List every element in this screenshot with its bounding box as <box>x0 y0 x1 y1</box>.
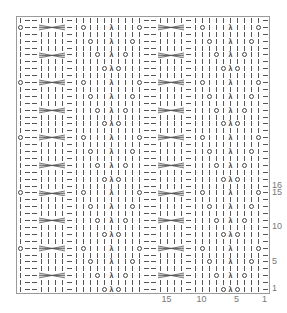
knit-icon <box>213 231 220 238</box>
purl-icon <box>150 190 157 197</box>
decrease-icon: λ <box>108 190 115 197</box>
column-number-label: 10 <box>197 294 207 304</box>
knit-icon <box>45 231 52 238</box>
knit-icon <box>59 58 66 65</box>
knit-icon <box>255 286 262 293</box>
knit-icon <box>213 65 220 72</box>
purl-icon <box>143 217 150 224</box>
yarn-over-icon <box>213 107 220 114</box>
purl-icon <box>150 231 157 238</box>
purl-icon <box>150 203 157 210</box>
knit-icon <box>122 190 129 197</box>
knit-icon <box>122 279 129 286</box>
knit-icon <box>52 17 59 24</box>
knit-icon <box>115 17 122 24</box>
knit-icon <box>52 155 59 162</box>
purl-icon <box>185 114 192 121</box>
knit-icon <box>115 93 122 100</box>
column-number-label: 15 <box>162 294 172 304</box>
yarn-over-icon <box>122 217 129 224</box>
knit-icon <box>255 162 262 169</box>
knit-icon <box>87 58 94 65</box>
knit-icon <box>234 162 241 169</box>
knit-icon <box>136 169 143 176</box>
knit-icon <box>59 265 66 272</box>
purl-icon <box>24 52 31 59</box>
knit-icon <box>248 224 255 231</box>
knit-icon <box>227 114 234 121</box>
purl-icon <box>24 272 31 279</box>
purl-icon <box>31 279 38 286</box>
knit-icon <box>220 31 227 38</box>
knit-icon <box>241 224 248 231</box>
knit-icon <box>241 17 248 24</box>
knit-icon <box>255 169 262 176</box>
yarn-over-icon <box>206 38 213 45</box>
knit-icon <box>241 24 248 31</box>
knit-icon <box>248 65 255 72</box>
purl-icon <box>262 252 269 259</box>
knit-icon <box>17 265 24 272</box>
knit-icon <box>17 224 24 231</box>
knit-icon <box>241 265 248 272</box>
purl-icon <box>31 79 38 86</box>
knit-icon <box>248 238 255 245</box>
knit-icon <box>80 286 87 293</box>
knit-icon <box>206 155 213 162</box>
cable-cross-icon <box>38 190 66 197</box>
knit-icon <box>178 286 185 293</box>
knit-icon <box>220 190 227 197</box>
purl-icon <box>185 183 192 190</box>
knit-icon <box>213 127 220 134</box>
knit-icon <box>234 24 241 31</box>
knit-icon <box>255 279 262 286</box>
purl-icon <box>185 72 192 79</box>
knit-icon <box>101 17 108 24</box>
knit-icon <box>157 203 164 210</box>
purl-icon <box>143 190 150 197</box>
knit-icon <box>220 107 227 114</box>
knit-icon <box>234 183 241 190</box>
knit-icon <box>101 272 108 279</box>
knit-icon <box>108 169 115 176</box>
knit-icon <box>73 210 80 217</box>
knit-icon <box>227 155 234 162</box>
knit-icon <box>199 196 206 203</box>
purl-icon <box>66 114 73 121</box>
knit-icon <box>87 17 94 24</box>
cable-cross-icon <box>38 272 66 279</box>
yarn-over-icon <box>115 121 122 128</box>
knit-icon <box>115 38 122 45</box>
purl-icon <box>262 272 269 279</box>
knit-icon <box>157 72 164 79</box>
purl-icon <box>66 169 73 176</box>
knit-icon <box>136 203 143 210</box>
knit-icon <box>213 121 220 128</box>
knit-icon <box>178 252 185 259</box>
yarn-over-icon <box>115 176 122 183</box>
knit-icon <box>129 245 136 252</box>
row-number-label: 16 <box>272 180 282 190</box>
knit-icon <box>80 162 87 169</box>
knit-icon <box>164 265 171 272</box>
knit-icon <box>213 79 220 86</box>
knit-icon <box>234 252 241 259</box>
purl-icon <box>185 141 192 148</box>
knit-icon <box>87 86 94 93</box>
knit-icon <box>220 134 227 141</box>
purl-icon <box>262 176 269 183</box>
knit-icon <box>108 141 115 148</box>
knit-icon <box>45 58 52 65</box>
knit-icon <box>248 58 255 65</box>
knit-icon <box>248 210 255 217</box>
knit-icon <box>94 17 101 24</box>
purl-icon <box>185 231 192 238</box>
purl-icon <box>185 58 192 65</box>
knit-icon <box>234 272 241 279</box>
knit-icon <box>80 176 87 183</box>
knit-icon <box>52 286 59 293</box>
knit-icon <box>255 183 262 190</box>
knit-icon <box>164 86 171 93</box>
decrease-icon: λ <box>227 121 234 128</box>
knit-icon <box>241 72 248 79</box>
